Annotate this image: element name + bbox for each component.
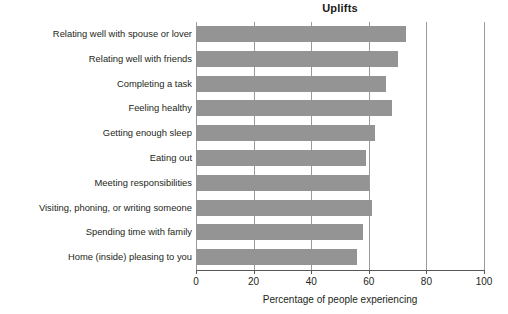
category-label: Relating well with spouse or lover xyxy=(2,29,192,39)
x-tick-mark-60 xyxy=(369,270,370,274)
category-label: Eating out xyxy=(2,153,192,163)
bar-row[interactable] xyxy=(196,72,484,97)
x-tick-mark-40 xyxy=(311,270,312,274)
category-label: Home (inside) pleasing to you xyxy=(2,252,192,262)
x-tick-mark-0 xyxy=(196,270,197,274)
bar[interactable] xyxy=(196,100,392,116)
x-tick-label-60: 60 xyxy=(363,276,374,287)
x-axis-title: Percentage of people experiencing xyxy=(196,294,484,305)
bar-row[interactable] xyxy=(196,196,484,221)
bar[interactable] xyxy=(196,249,357,265)
bar[interactable] xyxy=(196,125,375,141)
x-tick-label-0: 0 xyxy=(193,276,199,287)
x-tick-label-40: 40 xyxy=(306,276,317,287)
bar-row[interactable] xyxy=(196,245,484,270)
bar-row[interactable] xyxy=(196,121,484,146)
category-label: Spending time with family xyxy=(2,227,192,237)
bar-row[interactable] xyxy=(196,171,484,196)
x-tick-label-100: 100 xyxy=(476,276,493,287)
bar[interactable] xyxy=(196,26,406,42)
x-tick-label-80: 80 xyxy=(421,276,432,287)
x-tick-mark-20 xyxy=(254,270,255,274)
chart-figure: Uplifts Relating well with spouse or lov… xyxy=(0,0,508,314)
category-label: Meeting responsibilities xyxy=(2,178,192,188)
bar[interactable] xyxy=(196,224,363,240)
bar-row[interactable] xyxy=(196,220,484,245)
x-axis-line xyxy=(196,270,485,271)
bar-row[interactable] xyxy=(196,96,484,121)
x-tick-label-20: 20 xyxy=(248,276,259,287)
category-label: Visiting, phoning, or writing someone xyxy=(2,203,192,213)
bar[interactable] xyxy=(196,200,372,216)
bar[interactable] xyxy=(196,175,369,191)
plot-area xyxy=(196,22,484,270)
x-tick-mark-80 xyxy=(426,270,427,274)
bar[interactable] xyxy=(196,51,398,67)
category-label: Completing a task xyxy=(2,79,192,89)
x-tick-mark-100 xyxy=(484,270,485,274)
gridline-100 xyxy=(484,22,485,270)
bar[interactable] xyxy=(196,76,386,92)
bar-row[interactable] xyxy=(196,146,484,171)
chart-title: Uplifts xyxy=(196,2,484,14)
category-label: Relating well with friends xyxy=(2,54,192,64)
category-axis-labels: Relating well with spouse or loverRelati… xyxy=(0,22,192,270)
bar-row[interactable] xyxy=(196,22,484,47)
category-label: Feeling healthy xyxy=(2,103,192,113)
bar[interactable] xyxy=(196,150,366,166)
category-label: Getting enough sleep xyxy=(2,128,192,138)
bar-row[interactable] xyxy=(196,47,484,72)
